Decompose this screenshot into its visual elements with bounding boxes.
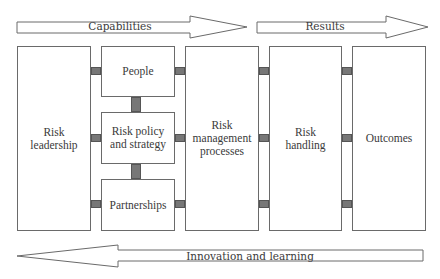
risk-handling-label: Risk handling <box>285 126 325 152</box>
risk-management-label: Risk management processes <box>193 119 252 158</box>
results-label: Results <box>270 20 380 33</box>
connector <box>342 67 352 75</box>
connector <box>342 200 352 208</box>
connector <box>91 67 101 75</box>
partnerships-label: Partnerships <box>110 199 167 212</box>
connector <box>175 67 185 75</box>
connector <box>175 134 185 142</box>
risk-leadership-label: Risk leadership <box>30 126 77 152</box>
risk-handling-box: Risk handling <box>269 46 342 231</box>
people-label: People <box>122 65 153 78</box>
capabilities-label: Capabilities <box>60 20 180 33</box>
connector <box>91 200 101 208</box>
risk-policy-label: Risk policy and strategy <box>110 125 166 151</box>
innovation-learning-label: Innovation and learning <box>170 250 330 263</box>
risk-framework-diagram: Capabilities Results Innovation and lear… <box>0 0 440 279</box>
outcomes-box: Outcomes <box>352 46 426 231</box>
risk-policy-box: Risk policy and strategy <box>101 112 175 164</box>
connector <box>131 164 141 179</box>
partnerships-box: Partnerships <box>101 179 175 231</box>
connector <box>342 134 352 142</box>
connector <box>259 134 269 142</box>
connector <box>259 67 269 75</box>
connector <box>91 134 101 142</box>
outcomes-label: Outcomes <box>366 132 413 145</box>
risk-leadership-box: Risk leadership <box>17 46 91 231</box>
connector <box>259 200 269 208</box>
people-box: People <box>101 46 175 97</box>
risk-management-box: Risk management processes <box>185 46 259 231</box>
connector <box>131 97 141 112</box>
connector <box>175 200 185 208</box>
